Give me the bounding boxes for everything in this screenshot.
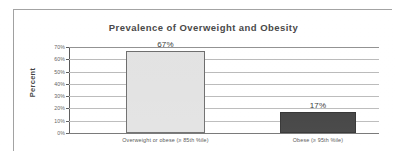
category-label: Overweight or obese (≥ 85th %ile) — [91, 137, 241, 143]
gridline — [69, 108, 379, 109]
y-axis-tick-label: 70% — [54, 44, 65, 50]
chart-title: Prevalence of Overweight and Obesity — [14, 22, 393, 33]
gridline — [69, 96, 379, 97]
gridline — [69, 133, 379, 134]
plot-area: 0%10%20%30%40%50%60%70% 67%17% — [69, 47, 379, 133]
gridline — [69, 59, 379, 60]
y-axis-tick-label: 20% — [54, 105, 65, 111]
y-axis-tick — [66, 108, 69, 109]
chart-frame: Prevalence of Overweight and Obesity Per… — [13, 9, 392, 151]
bar: 67% — [126, 51, 205, 133]
gridline — [69, 72, 379, 73]
y-axis-tick — [66, 133, 69, 134]
y-axis-tick — [66, 96, 69, 97]
bar: 17% — [280, 112, 356, 133]
y-axis-tick — [66, 47, 69, 48]
y-axis-tick — [66, 72, 69, 73]
y-axis-tick — [66, 84, 69, 85]
y-axis-tick-label: 50% — [54, 69, 65, 75]
y-axis-tick-label: 60% — [54, 56, 65, 62]
gridline — [69, 84, 379, 85]
y-axis-tick-label: 40% — [54, 81, 65, 87]
category-label: Obese (≥ 95th %ile) — [243, 137, 393, 143]
y-axis-tick-label: 10% — [54, 118, 65, 124]
y-axis-title: Percent — [28, 53, 37, 113]
y-axis-tick — [66, 59, 69, 60]
bar-value-label: 17% — [310, 101, 327, 110]
y-axis-tick-label: 30% — [54, 93, 65, 99]
gridline — [69, 47, 379, 48]
bar-value-label: 67% — [157, 40, 174, 49]
y-axis-tick — [66, 121, 69, 122]
figure-root: Prevalence of Overweight and Obesity Per… — [0, 0, 396, 159]
y-axis-tick-label: 0% — [57, 130, 65, 136]
